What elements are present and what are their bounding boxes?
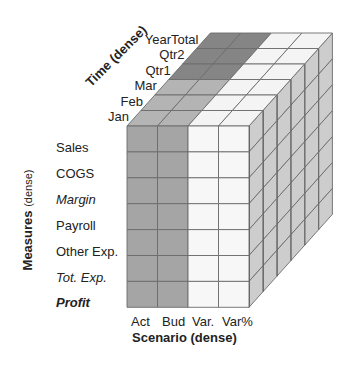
front-cell [158, 204, 189, 230]
time-member-label: YearTotal [145, 33, 199, 46]
front-cell [127, 178, 158, 204]
front-cell [127, 230, 158, 256]
front-cell [188, 178, 219, 204]
measure-member-label: COGS [56, 167, 94, 180]
scenario-member-label: Bud [162, 315, 185, 328]
scenario-member-label: Var. [192, 315, 214, 328]
time-member-label: Feb [121, 95, 143, 108]
front-cell [158, 281, 189, 307]
time-member-label: Jan [108, 110, 129, 123]
front-cell [188, 230, 219, 256]
front-cell [127, 204, 158, 230]
front-cell [219, 152, 250, 178]
measure-member-label: Margin [56, 193, 96, 206]
front-cell [158, 152, 189, 178]
front-cell [127, 152, 158, 178]
front-cell [219, 178, 250, 204]
measures-axis-title: Measures (dense) [21, 170, 34, 271]
front-cell [188, 281, 219, 307]
front-cell [219, 256, 250, 282]
front-cell [188, 204, 219, 230]
scenario-member-label: Act [131, 315, 150, 328]
measure-member-label: Payroll [56, 219, 96, 232]
front-cell [127, 281, 158, 307]
measures-qualifier: (dense) [22, 170, 34, 207]
scenario-member-label: Var% [222, 315, 253, 328]
front-cell [158, 126, 189, 152]
front-cell [188, 126, 219, 152]
measure-member-label: Sales [56, 141, 89, 154]
front-cell [158, 256, 189, 282]
front-cell [219, 281, 250, 307]
measures-title-text: Measures [20, 210, 35, 270]
measure-member-label: Other Exp. [56, 245, 118, 258]
front-cell [127, 126, 158, 152]
front-cell [188, 152, 219, 178]
front-cell [219, 230, 250, 256]
time-member-label: Qtr1 [145, 64, 170, 77]
front-cell [219, 204, 250, 230]
measure-member-label: Profit [56, 296, 90, 309]
front-cell [158, 230, 189, 256]
front-cell [158, 178, 189, 204]
front-cell [188, 256, 219, 282]
front-cell [127, 256, 158, 282]
measure-member-label: Tot. Exp. [56, 271, 107, 284]
front-cell [219, 126, 250, 152]
time-member-label: Mar [134, 79, 156, 92]
scenario-axis-title: Scenario (dense) [132, 331, 237, 344]
time-member-label: Qtr2 [159, 48, 184, 61]
